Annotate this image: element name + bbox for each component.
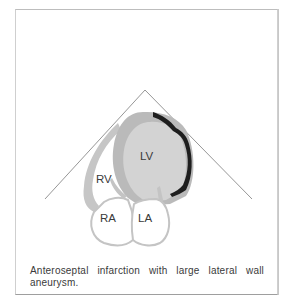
label-ra: RA bbox=[100, 212, 116, 224]
figure-caption: Anteroseptal infarction with large later… bbox=[30, 265, 264, 289]
label-la: LA bbox=[138, 212, 152, 224]
label-lv: LV bbox=[140, 150, 154, 162]
label-rv: RV bbox=[96, 173, 112, 185]
echo-apical-four-chamber-diagram: LV RV RA LA bbox=[0, 0, 289, 299]
